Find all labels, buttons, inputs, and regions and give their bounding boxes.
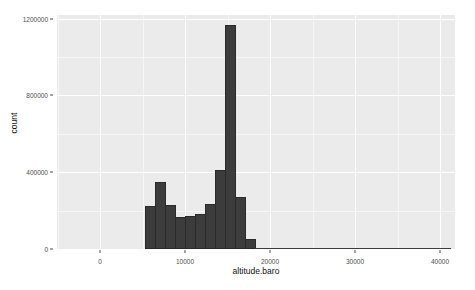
y-tick-mark bbox=[50, 172, 53, 173]
histogram-bar bbox=[145, 206, 156, 249]
gridline-major-vertical-4 bbox=[440, 15, 441, 249]
gridline-major-vertical-1 bbox=[185, 15, 186, 249]
histogram-bar bbox=[235, 197, 246, 249]
histogram-bar bbox=[205, 204, 216, 249]
x-axis-title: altitude.baro bbox=[57, 266, 455, 276]
tail-baseline bbox=[255, 248, 451, 250]
gridline-major-vertical-0 bbox=[100, 15, 101, 249]
x-tick-label: 30000 bbox=[346, 258, 364, 265]
gridline-minor-horizontal-0 bbox=[57, 211, 455, 212]
x-tick-mark bbox=[100, 250, 101, 253]
histogram-bar bbox=[165, 205, 176, 249]
gridline-minor-vertical-4 bbox=[398, 15, 399, 249]
x-tick-mark bbox=[355, 250, 356, 253]
histogram-bar bbox=[245, 239, 256, 249]
x-axis: 010000200003000040000 bbox=[57, 250, 455, 266]
histogram-bar bbox=[185, 216, 196, 249]
x-tick-label: 40000 bbox=[431, 258, 449, 265]
gridline-minor-vertical-1 bbox=[143, 15, 144, 249]
histogram-bar bbox=[225, 25, 236, 249]
y-tick-label: 0 bbox=[44, 246, 48, 253]
x-tick-label: 0 bbox=[98, 258, 102, 265]
histogram-chart: 04000008000001200000 count 0100002000030… bbox=[0, 0, 475, 290]
x-tick-label: 20000 bbox=[261, 258, 279, 265]
gridline-major-vertical-3 bbox=[355, 15, 356, 249]
y-tick-label: 400000 bbox=[26, 169, 48, 176]
x-tick-mark bbox=[185, 250, 186, 253]
gridline-minor-horizontal-2 bbox=[57, 57, 455, 58]
histogram-bar bbox=[175, 217, 186, 249]
y-axis-title: count bbox=[9, 93, 19, 153]
histogram-bar bbox=[155, 182, 166, 249]
gridline-minor-vertical-3 bbox=[313, 15, 314, 249]
x-tick-mark bbox=[270, 250, 271, 253]
gridline-minor-horizontal-1 bbox=[57, 134, 455, 135]
plot-panel bbox=[57, 15, 455, 249]
y-tick-label: 1200000 bbox=[23, 16, 48, 23]
y-tick-mark bbox=[50, 249, 53, 250]
gridline-major-horizontal-2 bbox=[57, 95, 455, 96]
x-tick-mark bbox=[440, 250, 441, 253]
y-tick-label: 800000 bbox=[26, 92, 48, 99]
y-tick-mark bbox=[50, 19, 53, 20]
gridline-major-horizontal-1 bbox=[57, 172, 455, 173]
gridline-major-horizontal-3 bbox=[57, 19, 455, 20]
gridline-major-vertical-2 bbox=[270, 15, 271, 249]
y-tick-mark bbox=[50, 95, 53, 96]
histogram-bar bbox=[215, 170, 226, 249]
x-tick-label: 10000 bbox=[176, 258, 194, 265]
histogram-bar bbox=[195, 214, 206, 249]
gridline-minor-vertical-0 bbox=[58, 15, 59, 249]
